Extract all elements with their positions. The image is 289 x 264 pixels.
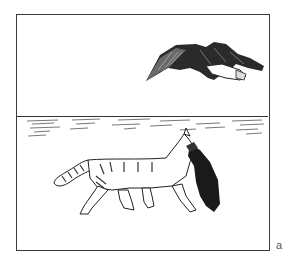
caught-bird: [186, 142, 220, 212]
tabby-cat: [54, 128, 196, 214]
flying-bird: [146, 42, 264, 81]
panel-label: a: [276, 239, 282, 251]
illustration-canvas: [0, 0, 289, 264]
water-hatching: [27, 119, 264, 136]
